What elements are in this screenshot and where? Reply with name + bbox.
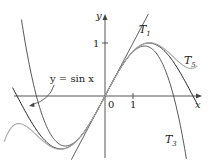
t3-label: T3: [165, 133, 177, 148]
x-axis-label: x: [195, 99, 201, 110]
x-axis-arrow-icon: [196, 94, 202, 99]
x-tick-label: 1: [130, 99, 136, 110]
curve-t3: [22, 20, 187, 159]
y-tick-label: 1: [93, 38, 99, 49]
sin-label: y = sin x: [49, 73, 94, 84]
y-axis-label: y: [95, 10, 102, 21]
t5-label: T5: [184, 54, 196, 69]
y-axis-arrow-icon: [103, 14, 108, 20]
t1-label: T1: [139, 23, 151, 38]
origin-label: 0: [108, 99, 114, 110]
pointer-arrow-icon: [29, 103, 35, 108]
taylor-plot: 0 1 1 x y y = sin x T1 T3 T5: [0, 0, 215, 163]
